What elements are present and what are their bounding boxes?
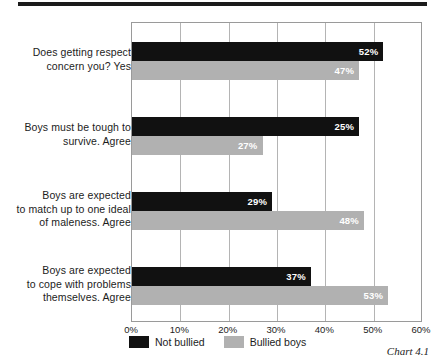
- chart-legend: Not bulliedBullied boys: [129, 336, 318, 348]
- legend-swatch: [129, 336, 149, 348]
- category-label-line: concern you? Yes: [5, 60, 131, 74]
- category-label: Boys are expectedto match up to one idea…: [5, 189, 131, 230]
- bar-value-label: 48%: [339, 215, 359, 226]
- x-tick-label: 20%: [218, 324, 237, 335]
- category-label-line: survive. Agree: [5, 135, 131, 149]
- x-tick-label: 30%: [266, 324, 285, 335]
- bar-value-label: 37%: [286, 271, 306, 282]
- category-label-line: Does getting respect: [5, 46, 131, 60]
- chart-caption: Chart 4.1: [387, 345, 429, 357]
- category-label-line: Boys are expected: [5, 189, 131, 203]
- bar-value-label: 25%: [335, 121, 355, 132]
- bar-not-bullied: 29%: [132, 192, 272, 211]
- category-label-line: themselves. Agree: [5, 291, 131, 305]
- plot-area: 52%47%25%27%29%48%37%53%: [131, 22, 422, 322]
- bar-value-label: 27%: [238, 140, 258, 151]
- category-label: Boys must be tough tosurvive. Agree: [5, 121, 131, 148]
- category-label-line: of maleness. Agree: [5, 216, 131, 230]
- x-tick-label: 60%: [411, 324, 430, 335]
- category-axis-labels: Does getting respectconcern you? YesBoys…: [0, 22, 131, 322]
- bar-bullied-boys: 48%: [132, 211, 364, 230]
- category-label-line: Boys are expected: [5, 264, 131, 278]
- category-label: Does getting respectconcern you? Yes: [5, 46, 131, 73]
- x-tick-label: 40%: [315, 324, 334, 335]
- bar-value-label: 53%: [364, 290, 384, 301]
- category-label-line: to match up to one ideal: [5, 203, 131, 217]
- bar-not-bullied: 52%: [132, 42, 383, 61]
- bar-not-bullied: 25%: [132, 117, 359, 136]
- bar-value-label: 29%: [248, 196, 268, 207]
- gridline: [374, 23, 375, 321]
- legend-entry: Bullied boys: [224, 336, 307, 348]
- top-divider-rule: [18, 2, 427, 6]
- bar-bullied-boys: 27%: [132, 136, 263, 155]
- bar-bullied-boys: 53%: [132, 286, 388, 305]
- category-label-line: Boys must be tough to: [5, 121, 131, 135]
- bar-value-label: 52%: [359, 46, 379, 57]
- bar-value-label: 47%: [335, 65, 355, 76]
- category-label: Boys are expectedto cope with problemsth…: [5, 264, 131, 305]
- category-label-line: to cope with problems: [5, 278, 131, 292]
- x-tick-label: 10%: [170, 324, 189, 335]
- x-tick-label: 50%: [363, 324, 382, 335]
- bar-not-bullied: 37%: [132, 267, 311, 286]
- legend-label: Bullied boys: [250, 336, 307, 348]
- legend-swatch: [224, 336, 244, 348]
- legend-label: Not bullied: [155, 336, 205, 348]
- legend-entry: Not bullied: [129, 336, 205, 348]
- bar-bullied-boys: 47%: [132, 61, 359, 80]
- x-tick-label: 0%: [124, 324, 138, 335]
